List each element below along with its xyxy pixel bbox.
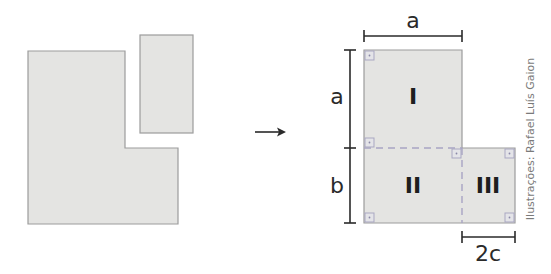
dimension-top-width: a: [364, 8, 462, 42]
region-label-iii: III: [476, 173, 501, 198]
dimension-label-top-a: a: [406, 8, 419, 33]
region-label-i: I: [409, 84, 417, 109]
rearranged-figure: I II III: [364, 50, 515, 223]
right-angle-icon: [505, 213, 514, 222]
original-pieces: [28, 35, 193, 224]
dimension-bottom-width: 2c: [462, 231, 515, 266]
dimension-left-height: a b: [330, 50, 356, 223]
right-angle-icon: [452, 149, 461, 158]
right-angle-icon: [365, 51, 374, 60]
diagram-canvas: I II III a a b 2c Ilustrações: Rafael Lu…: [0, 0, 551, 274]
illustration-credit: Ilustrações: Rafael Luís Gaion: [524, 58, 537, 220]
right-angle-icon: [365, 138, 374, 147]
dimension-label-left-b: b: [330, 173, 344, 198]
transform-arrow-icon: [255, 128, 286, 137]
separate-rectangle: [140, 35, 193, 133]
dimension-label-left-a: a: [330, 84, 343, 109]
dimension-label-2c: 2c: [475, 241, 501, 266]
region-label-ii: II: [405, 173, 421, 198]
right-angle-icon: [505, 149, 514, 158]
right-angle-icon: [365, 213, 374, 222]
